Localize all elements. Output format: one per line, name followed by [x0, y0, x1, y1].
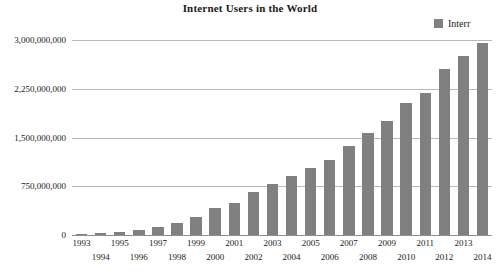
x-axis-tick-label: 2011	[416, 238, 434, 248]
y-axis-tick-label: 3,000,000,000	[0, 35, 66, 45]
x-axis-slot: 2005	[301, 237, 320, 277]
y-axis-tick-label: 0	[0, 230, 66, 240]
legend-swatch-icon	[434, 19, 443, 28]
bar-chart: Internet Users in the World Interr 0750,…	[0, 0, 500, 279]
plot-area	[72, 40, 492, 235]
bar-slot	[148, 40, 167, 235]
bar[interactable]	[133, 230, 144, 235]
x-axis-tick-label: 2005	[302, 238, 320, 248]
bar-slot	[244, 40, 263, 235]
x-axis-tick-label: 1997	[149, 238, 167, 248]
x-axis-tick-label: 2004	[283, 252, 301, 262]
x-axis-slot: 2002	[244, 237, 263, 277]
x-axis-labels: 1993199419951996199719981999200020012002…	[72, 237, 492, 277]
bar-slot	[416, 40, 435, 235]
x-axis-slot: 2010	[397, 237, 416, 277]
bar-slot	[397, 40, 416, 235]
bar-slot	[263, 40, 282, 235]
x-axis-slot: 2013	[454, 237, 473, 277]
bar[interactable]	[267, 184, 278, 235]
bar-slot	[167, 40, 186, 235]
bar-slot	[72, 40, 91, 235]
x-axis-tick-label: 1994	[92, 252, 110, 262]
bar-slot	[473, 40, 492, 235]
bar[interactable]	[209, 208, 220, 235]
bar[interactable]	[171, 223, 182, 235]
x-axis-tick-label: 2010	[397, 252, 415, 262]
bar-slot	[301, 40, 320, 235]
bar-slot	[339, 40, 358, 235]
bar[interactable]	[305, 168, 316, 235]
bar[interactable]	[324, 160, 335, 235]
chart-legend: Interr	[434, 18, 470, 29]
bar-slot	[435, 40, 454, 235]
bar-slot	[129, 40, 148, 235]
bar-slot	[358, 40, 377, 235]
x-axis-slot: 1995	[110, 237, 129, 277]
y-axis-tick-label: 2,250,000,000	[0, 84, 66, 94]
x-axis-slot: 2009	[378, 237, 397, 277]
x-axis-slot: 2000	[206, 237, 225, 277]
bar[interactable]	[362, 133, 373, 235]
x-axis-slot: 2006	[320, 237, 339, 277]
x-axis-tick-label: 2008	[359, 252, 377, 262]
bar-slot	[110, 40, 129, 235]
bar-slot	[378, 40, 397, 235]
bar[interactable]	[420, 93, 431, 235]
x-axis-tick-label: 2007	[340, 238, 358, 248]
bar-slot	[225, 40, 244, 235]
bar[interactable]	[400, 103, 411, 235]
x-axis-tick-label: 2006	[321, 252, 339, 262]
bar[interactable]	[477, 43, 488, 235]
bar[interactable]	[95, 233, 106, 235]
y-axis-tick-label: 1,500,000,000	[0, 133, 66, 143]
bar[interactable]	[343, 146, 354, 235]
x-axis-tick-label: 2013	[454, 238, 472, 248]
x-axis-tick-label: 1996	[130, 252, 148, 262]
x-axis-tick-label: 2009	[378, 238, 396, 248]
x-axis-slot: 2011	[416, 237, 435, 277]
bar[interactable]	[76, 234, 87, 235]
bar-slot	[454, 40, 473, 235]
x-axis-tick-label: 1998	[168, 252, 186, 262]
x-axis-slot: 2003	[263, 237, 282, 277]
bar-slot	[91, 40, 110, 235]
x-axis-slot: 2001	[225, 237, 244, 277]
bar-slot	[282, 40, 301, 235]
bar[interactable]	[114, 232, 125, 235]
x-axis-slot: 2014	[473, 237, 492, 277]
bar[interactable]	[381, 121, 392, 235]
x-axis-slot: 2012	[435, 237, 454, 277]
x-axis-slot: 2007	[339, 237, 358, 277]
bar-series	[72, 40, 492, 235]
bar[interactable]	[248, 192, 259, 235]
bar-slot	[206, 40, 225, 235]
bar[interactable]	[458, 56, 469, 235]
x-axis-tick-label: 2014	[474, 252, 492, 262]
bar[interactable]	[229, 203, 240, 236]
x-axis-tick-label: 1999	[187, 238, 205, 248]
bar[interactable]	[152, 227, 163, 235]
bar[interactable]	[439, 69, 450, 235]
bar[interactable]	[190, 217, 201, 235]
x-axis-tick-label: 2002	[244, 252, 262, 262]
x-axis-slot: 1993	[72, 237, 91, 277]
x-axis-slot: 1994	[91, 237, 110, 277]
legend-label: Interr	[448, 18, 470, 29]
x-axis-slot: 1999	[187, 237, 206, 277]
x-axis-tick-label: 1993	[73, 238, 91, 248]
bar[interactable]	[286, 176, 297, 235]
y-axis-tick-label: 750,000,000	[0, 181, 66, 191]
x-axis-tick-label: 2003	[263, 238, 281, 248]
x-axis-tick-label: 1995	[111, 238, 129, 248]
gridline	[72, 235, 492, 236]
x-axis-tick-label: 2000	[206, 252, 224, 262]
x-axis-tick-label: 2001	[225, 238, 243, 248]
bar-slot	[320, 40, 339, 235]
chart-title: Internet Users in the World	[0, 2, 500, 14]
x-axis-tick-label: 2012	[435, 252, 453, 262]
x-axis-slot: 1996	[129, 237, 148, 277]
x-axis-slot: 2004	[282, 237, 301, 277]
x-axis-slot: 2008	[358, 237, 377, 277]
bar-slot	[187, 40, 206, 235]
